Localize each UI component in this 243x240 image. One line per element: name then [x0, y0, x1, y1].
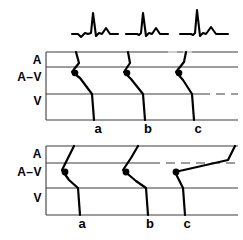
top-av-node-dot-a	[72, 70, 79, 77]
ecg-rhythm-strip	[0, 0, 243, 46]
top-conduction-a	[72, 52, 94, 120]
top-av-node-dot-c	[176, 70, 183, 77]
bottom-beat-label-a: a	[75, 217, 89, 230]
bottom-conduction-b	[123, 146, 148, 215]
ladder-panel-top	[46, 52, 238, 120]
bottom-tier-label-ventricular: V	[0, 192, 42, 204]
bottom-av-node-dot-c	[173, 169, 180, 176]
top-tier-label-av: A–V	[0, 71, 42, 83]
top-conduction-c	[176, 52, 194, 120]
bottom-av-node-dot-b	[123, 169, 130, 176]
ladder-panel-bottom	[46, 146, 238, 215]
top-beat-label-a: a	[91, 122, 105, 135]
bottom-tier-label-av: A–V	[0, 166, 42, 178]
bottom-beat-label-c: c	[180, 217, 194, 230]
bottom-tier-label-atrial: A	[0, 148, 42, 160]
top-conduction-b	[124, 52, 145, 120]
top-tier-label-ventricular: V	[0, 95, 42, 107]
ecg-complex-a	[72, 13, 118, 37]
top-tier-label-atrial: A	[0, 54, 42, 66]
bottom-beat-label-b: b	[143, 217, 157, 230]
bottom-av-node-dot-a	[62, 169, 69, 176]
ecg-complex-c	[180, 10, 228, 36]
bottom-conduction-a	[62, 146, 80, 215]
top-beat-label-b: b	[141, 122, 155, 135]
cardiac-ladder-figure: A A–V V a b c A A–V V a b c	[0, 0, 243, 240]
top-av-node-dot-b	[124, 70, 131, 77]
ecg-complex-b	[126, 13, 168, 36]
bottom-conduction-c	[175, 146, 235, 215]
top-beat-label-c: c	[191, 122, 205, 135]
